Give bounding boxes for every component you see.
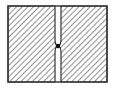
pinch-point-dot [56,44,60,48]
right-hatched-region [59,6,107,82]
hatched-block-diagram [0,0,115,89]
left-hatched-region [8,6,57,82]
